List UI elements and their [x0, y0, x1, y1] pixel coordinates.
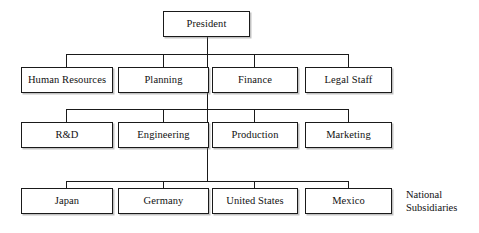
node-production-label: Production [231, 130, 278, 141]
node-president-label: President [187, 19, 227, 30]
node-marketing-label: Marketing [326, 130, 371, 141]
national-subsidiaries-annotation-line2: Subsidiaries [406, 202, 457, 215]
bus-line-row1 [66, 54, 349, 55]
national-subsidiaries-annotation: National Subsidiaries [406, 189, 457, 215]
node-united-states[interactable]: United States [212, 188, 298, 214]
node-mexico[interactable]: Mexico [305, 188, 392, 214]
stub-line-row2-node1 [66, 109, 67, 123]
national-subsidiaries-annotation-line1: National [406, 189, 457, 202]
node-japan-label: Japan [55, 196, 79, 207]
node-engineering[interactable]: Engineering [118, 122, 209, 148]
node-germany[interactable]: Germany [118, 188, 209, 214]
node-finance[interactable]: Finance [212, 67, 298, 93]
node-president[interactable]: President [163, 11, 250, 37]
stub-line-row2-node2 [163, 109, 164, 123]
node-planning[interactable]: Planning [118, 67, 209, 93]
node-human-resources-label: Human Resources [28, 75, 106, 86]
stub-line-row1-node2 [163, 54, 164, 68]
node-mexico-label: Mexico [332, 196, 365, 207]
stub-line-row2-node4 [348, 109, 349, 123]
node-engineering-label: Engineering [137, 130, 189, 141]
bus-line-row2 [66, 109, 349, 110]
stub-line-row1-node1 [66, 54, 67, 68]
node-finance-label: Finance [238, 75, 272, 86]
node-legal-staff[interactable]: Legal Staff [305, 67, 392, 93]
stub-line-row1-node3 [254, 54, 255, 68]
node-legal-staff-label: Legal Staff [325, 75, 373, 86]
node-united-states-label: United States [226, 196, 284, 207]
node-planning-label: Planning [144, 75, 182, 86]
node-rnd[interactable]: R&D [21, 122, 113, 148]
org-chart-diagram: President Human Resources Planning Finan… [0, 0, 479, 233]
node-japan[interactable]: Japan [21, 188, 113, 214]
node-germany-label: Germany [144, 196, 184, 207]
stub-line-row1-node4 [348, 54, 349, 68]
stub-line-row2-node3 [254, 109, 255, 123]
node-rnd-label: R&D [55, 130, 78, 141]
node-production[interactable]: Production [212, 122, 298, 148]
bus-line-row3 [66, 181, 349, 182]
node-marketing[interactable]: Marketing [305, 122, 392, 148]
node-human-resources[interactable]: Human Resources [21, 67, 113, 93]
